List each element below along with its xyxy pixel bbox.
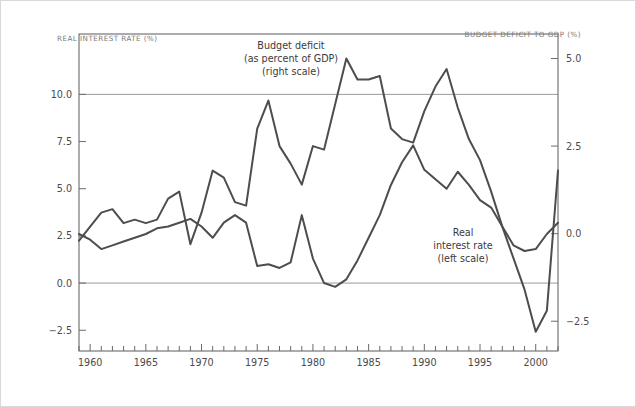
deficit-annotation-line2: (as percent of GDP) xyxy=(244,53,338,64)
deficit-annotation-line1: Budget deficit xyxy=(257,40,325,51)
x-axis-ticks: 196019651970197519801985199019952000 xyxy=(78,344,558,368)
x-tick-label: 2000 xyxy=(524,357,548,368)
y-tick-label-left: 2.5 xyxy=(57,230,72,241)
x-tick-label: 1980 xyxy=(301,357,325,368)
x-tick-label: 1965 xyxy=(134,357,158,368)
deficit-annotation-line3: (right scale) xyxy=(262,66,320,77)
plot-frame xyxy=(79,34,558,351)
x-tick-label: 1970 xyxy=(189,357,213,368)
chart-canvas: 196019651970197519801985199019952000 −2.… xyxy=(1,1,636,407)
y-tick-label-right: 2.5 xyxy=(566,141,581,152)
real-rate-annotation-line1: Real xyxy=(453,227,474,238)
x-tick-label: 1990 xyxy=(412,357,436,368)
y-tick-label-right: −2.5 xyxy=(566,316,589,327)
real-rate-annotation-line2: interest rate xyxy=(433,240,492,251)
series-line-budget-deficit xyxy=(79,59,558,332)
y-tick-label-right: 5.0 xyxy=(566,53,581,64)
right-axis-title: BUDGET DEFICIT TO GDP (%) xyxy=(465,30,581,39)
deficit-annotation: Budget deficit (as percent of GDP) (righ… xyxy=(244,40,338,77)
y-tick-label-left: 7.5 xyxy=(57,136,72,147)
figure-container: 196019651970197519801985199019952000 −2.… xyxy=(0,0,636,407)
y-tick-label-left: 0.0 xyxy=(57,278,72,289)
real-rate-annotation-line3: (left scale) xyxy=(438,253,489,264)
x-tick-label: 1985 xyxy=(356,357,380,368)
left-axis-title: REAL INTEREST RATE (%) xyxy=(57,34,158,43)
y-tick-label-left: 10.0 xyxy=(51,89,72,100)
real-rate-annotation: Real interest rate (left scale) xyxy=(433,227,492,264)
x-tick-label: 1975 xyxy=(245,357,269,368)
y-tick-label-right: 0.0 xyxy=(566,228,581,239)
data-series-group xyxy=(79,59,558,332)
x-tick-label: 1995 xyxy=(468,357,492,368)
y-tick-label-left: 5.0 xyxy=(57,183,72,194)
x-tick-label: 1960 xyxy=(78,357,102,368)
y-axis-left-ticks: −2.50.02.55.07.510.0 xyxy=(49,89,86,336)
series-line-real-interest-rate xyxy=(79,145,558,287)
plot-border xyxy=(79,34,558,351)
y-tick-label-left: −2.5 xyxy=(49,325,72,336)
